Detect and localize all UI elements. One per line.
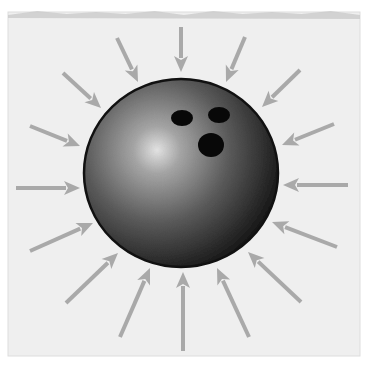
pressure-diagram bbox=[0, 0, 366, 369]
thumb-hole bbox=[198, 133, 224, 157]
bowling-ball bbox=[84, 79, 278, 267]
finger-hole-right bbox=[208, 107, 230, 123]
finger-hole-left bbox=[171, 110, 193, 126]
diagram-stage: Bowling ball with gray arrows pointing i… bbox=[0, 0, 366, 369]
